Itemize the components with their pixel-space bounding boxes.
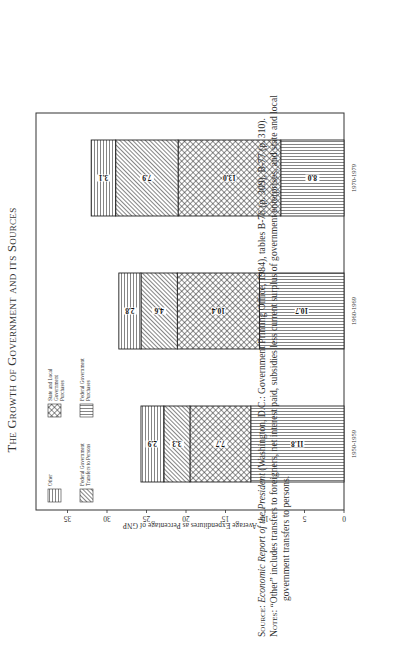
y-tick-label: 0 (342, 514, 346, 523)
category-label: 1950-1959 (350, 430, 357, 458)
bar-value-label: 7.9 (142, 173, 152, 182)
svg-text:Purchases: Purchases (85, 380, 91, 401)
bars-group: 11.87.73.32.91950-195910.710.44.62.81960… (91, 140, 357, 482)
legend-item-other: Other (47, 474, 61, 502)
bar-value-label: 3.3 (172, 439, 182, 448)
notes-caption: Notes: “Other” includes transfers to for… (268, 95, 281, 637)
category-label: 1960-1969 (350, 297, 357, 325)
y-tick-label: 30 (103, 514, 111, 523)
stacked-bar-chart: The Growth of Government and its Sources… (0, 0, 413, 659)
legend-item-federal-purchases: Federal Government Purchases (79, 358, 93, 417)
bar-value-label: 3.1 (99, 173, 109, 182)
y-axis-label: Average Expenditures as Percentage of GN… (123, 521, 257, 530)
bar-1960-1969: 10.710.44.62.81960-1969 (119, 273, 357, 349)
bar-value-label: 8.0 (307, 173, 317, 182)
chart-title: The Growth of Government and its Sources (5, 208, 19, 453)
svg-text:Transfers to Persons: Transfers to Persons (85, 444, 91, 486)
bar-1970-1979: 8.013.07.93.11970-1979 (91, 140, 357, 216)
rotated-page: The Growth of Government and its Sources… (0, 0, 413, 659)
source-caption: Source: Economic Report of the President… (256, 118, 269, 637)
bar-value-label: 7.7 (215, 439, 225, 448)
svg-text:Other: Other (47, 474, 53, 486)
bar-value-label: 10.4 (212, 306, 225, 315)
bar-value-label: 10.7 (295, 306, 308, 315)
y-tick-label: 35 (64, 514, 72, 523)
notes-caption-continued: government transfers to persons. (280, 476, 293, 601)
legend-item-transfers: Federal Government Transfers to Persons (79, 443, 93, 502)
bar-value-label: 11.8 (291, 439, 304, 448)
bar-value-label: 4.6 (154, 306, 164, 315)
bar-value-label: 13.0 (223, 173, 236, 182)
bar-value-label: 2.8 (125, 306, 135, 315)
category-label: 1970-1979 (350, 164, 357, 192)
y-tick-label: 5 (302, 514, 306, 523)
svg-text:Purchases: Purchases (59, 380, 65, 401)
bar-value-label: 2.9 (147, 439, 157, 448)
legend-item-state-local: State and Local Government Purchases (47, 368, 65, 417)
bar-1950-1959: 11.87.73.32.91950-1959 (141, 406, 357, 482)
legend: Other State and Local Government Purchas… (47, 358, 93, 502)
